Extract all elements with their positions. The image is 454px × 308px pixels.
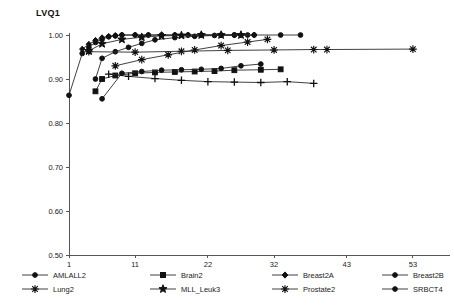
- asterisk-icon: [224, 47, 232, 55]
- data-point-marker: [217, 42, 225, 50]
- asterisk-icon: [270, 46, 278, 54]
- data-point-marker: [270, 46, 278, 54]
- data-point-marker: [138, 56, 146, 64]
- asterisk-icon: [217, 42, 225, 50]
- data-point-marker: [131, 48, 139, 56]
- data-point-marker: [278, 33, 283, 38]
- circle-icon: [192, 34, 197, 39]
- data-point-marker: [409, 45, 417, 53]
- legend-marker-icon: [31, 285, 39, 293]
- data-point-marker: [138, 33, 146, 41]
- y-tick-label: 1.00: [48, 31, 63, 40]
- data-point-marker: [244, 38, 252, 46]
- legend-item-srbct4[interactable]: SRBCT4: [382, 285, 443, 294]
- data-point-marker: [232, 68, 237, 73]
- legend-label: SRBCT4: [413, 285, 443, 294]
- asterisk-icon: [138, 56, 146, 64]
- asterisk-icon: [131, 48, 139, 56]
- legend-item-amlall2[interactable]: AMLALL2: [22, 271, 86, 280]
- legend-item-prostate2[interactable]: Prostate2: [272, 285, 335, 294]
- square-icon: [258, 67, 263, 72]
- data-point-marker: [67, 93, 72, 98]
- circle-icon: [219, 66, 224, 71]
- legend-item-mll-leuk3[interactable]: MLL_Leuk3: [150, 285, 220, 294]
- y-tick-label: 0.90: [48, 75, 63, 84]
- legend-label: MLL_Leuk3: [181, 285, 220, 294]
- y-tick-label: 0.60: [48, 207, 63, 216]
- data-point-marker: [100, 96, 105, 101]
- square-icon: [232, 68, 237, 73]
- data-point-marker: [118, 35, 126, 43]
- circle-icon: [298, 33, 303, 38]
- data-point-marker: [278, 67, 283, 72]
- y-tick-label: 0.70: [48, 163, 63, 172]
- legend-item-breast2b[interactable]: Breast2B: [382, 271, 444, 280]
- data-point-marker: [111, 62, 119, 70]
- data-point-marker: [323, 46, 331, 54]
- data-point-marker: [212, 69, 217, 74]
- square-icon: [212, 69, 217, 74]
- plus-icon: [178, 77, 186, 85]
- data-point-marker: [158, 32, 166, 40]
- data-point-marker: [258, 67, 263, 72]
- circle-icon: [139, 41, 144, 46]
- asterisk-icon: [31, 285, 39, 293]
- square-icon: [278, 67, 283, 72]
- data-point-marker: [258, 62, 263, 67]
- asterisk-icon: [323, 46, 331, 54]
- data-point-marker: [298, 33, 303, 38]
- circle-icon: [159, 68, 164, 73]
- data-point-marker: [100, 77, 105, 82]
- circle-icon: [179, 67, 184, 72]
- series-lung2: [85, 45, 417, 56]
- data-point-marker: [153, 37, 158, 42]
- asterisk-icon: [178, 47, 186, 55]
- legend-label: Breast2A: [303, 271, 334, 280]
- x-tick-label: 32: [270, 260, 278, 269]
- data-point-marker: [217, 31, 225, 39]
- data-point-marker: [199, 67, 204, 72]
- circle-icon: [278, 33, 283, 38]
- legend-item-breast2a[interactable]: Breast2A: [272, 271, 334, 280]
- square-icon: [100, 77, 105, 82]
- y-tick-label: 0.50: [48, 251, 63, 260]
- circle-icon: [258, 62, 263, 67]
- circle-icon: [120, 71, 125, 76]
- circle-icon: [139, 69, 144, 74]
- asterisk-icon: [281, 285, 289, 293]
- legend-label: AMLALL2: [53, 271, 86, 280]
- circle-icon: [100, 56, 105, 61]
- legend-marker-icon: [33, 273, 38, 278]
- legend-item-brain2[interactable]: Brain2: [150, 271, 203, 280]
- plus-icon: [310, 80, 318, 88]
- data-point-marker: [100, 56, 105, 61]
- star-icon: [217, 31, 225, 39]
- star-icon: [138, 33, 146, 41]
- circle-icon: [239, 63, 244, 68]
- series-line: [89, 35, 241, 51]
- diamond-icon: [282, 272, 288, 278]
- star-icon: [118, 35, 126, 43]
- square-icon: [161, 273, 166, 278]
- line-chart: 0.500.600.700.800.901.0011122324353AMLAL…: [0, 0, 454, 308]
- data-point-marker: [93, 89, 98, 94]
- legend-marker-icon: [393, 273, 398, 278]
- asterisk-icon: [409, 45, 417, 53]
- legend-label: Prostate2: [303, 285, 335, 294]
- plus-icon: [204, 78, 212, 86]
- data-point-marker: [252, 33, 257, 38]
- data-point-marker: [179, 67, 184, 72]
- data-point-marker: [191, 46, 199, 54]
- data-point-marker: [237, 31, 245, 39]
- legend-marker-icon: [393, 287, 398, 292]
- data-point-marker: [224, 47, 232, 55]
- circle-icon: [67, 93, 72, 98]
- data-point-marker: [257, 79, 265, 87]
- data-point-marker: [192, 34, 197, 39]
- legend-label: Breast2B: [413, 271, 444, 280]
- data-point-marker: [239, 63, 244, 68]
- data-point-marker: [310, 80, 318, 88]
- data-point-marker: [120, 71, 125, 76]
- legend-item-lung2[interactable]: Lung2: [22, 285, 74, 294]
- x-tick-label: 22: [204, 260, 212, 269]
